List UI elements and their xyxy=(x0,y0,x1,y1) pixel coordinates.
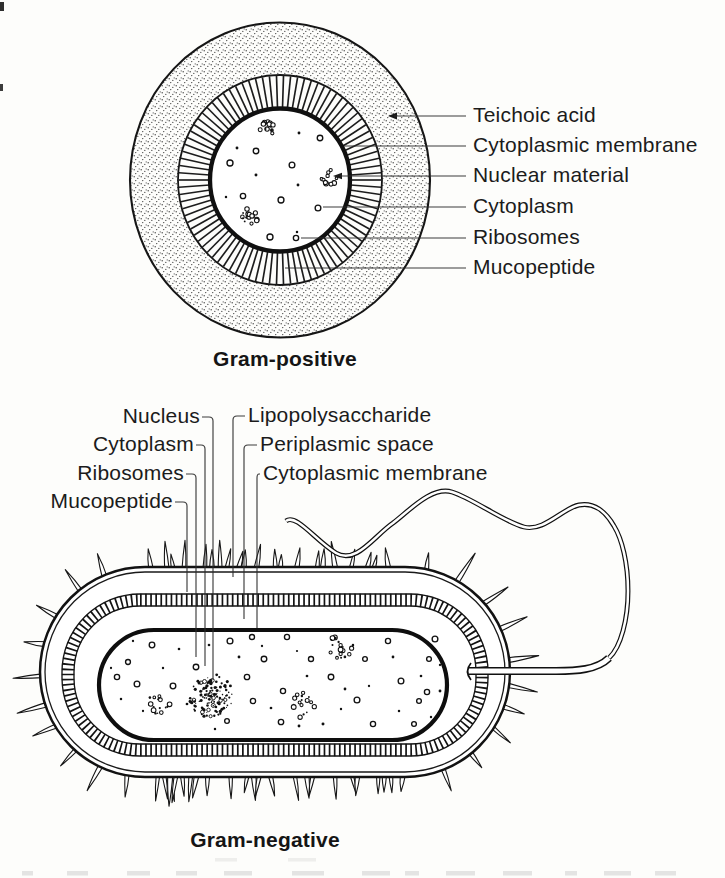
nuclear-granule xyxy=(159,711,163,715)
ribosome-dot xyxy=(392,656,395,659)
ribosome xyxy=(424,689,429,694)
fimbria xyxy=(164,541,169,569)
nucleoid-speck xyxy=(228,692,230,694)
nucleoid-speck xyxy=(210,687,212,689)
nucleoid-speck xyxy=(217,713,219,715)
ribosome-dot xyxy=(178,648,181,651)
ribosome-dot xyxy=(398,710,401,713)
nucleoid-speck xyxy=(212,696,216,700)
scan-edge-mark xyxy=(0,84,3,91)
hatch-spoke xyxy=(342,214,369,229)
ribosome xyxy=(126,660,131,665)
gram-negative-caption: Gram-negative xyxy=(190,828,340,851)
nucleoid-speck xyxy=(195,703,196,704)
fimbria xyxy=(454,553,475,584)
nuclear-granule xyxy=(301,699,303,701)
ribosome-dot xyxy=(120,698,122,700)
nuclear-granule xyxy=(149,696,152,699)
gram-positive-caption: Gram-positive xyxy=(213,347,357,370)
ribosome-dot xyxy=(238,656,241,659)
nucleoid-speck xyxy=(200,699,203,702)
nuclear-granule xyxy=(245,207,249,211)
ribosome xyxy=(412,722,417,727)
nucleoid-speck xyxy=(219,699,222,702)
gn-label-lipopolysaccharide: Lipopolysaccharide xyxy=(248,403,431,426)
nuclear-granule xyxy=(261,122,265,126)
ribosome xyxy=(427,657,432,662)
nucleoid-speck xyxy=(216,693,217,694)
nucleoid-speck xyxy=(206,715,208,717)
ribosome-dot xyxy=(214,728,216,730)
nucleoid-speck xyxy=(201,707,203,709)
nucleoid-speck xyxy=(202,696,204,698)
ribosome xyxy=(227,160,233,166)
nuclear-granule xyxy=(159,698,163,702)
nuclear-granule xyxy=(308,696,310,698)
nucleoid-speck xyxy=(230,703,231,704)
gn-label-ribosomes: Ribosomes xyxy=(77,461,184,484)
nuclear-granule xyxy=(326,174,329,177)
fimbria xyxy=(17,702,48,713)
nuclear-granule xyxy=(271,123,275,127)
cropped-caption-fragment xyxy=(292,871,324,876)
ribosome-dot xyxy=(225,196,227,198)
ribosome xyxy=(149,642,155,648)
cropped-caption-fragment xyxy=(288,858,316,862)
fimbria xyxy=(293,775,299,800)
nucleoid-speck xyxy=(208,698,211,701)
hatch-spoke xyxy=(262,77,267,109)
nucleoid-speck xyxy=(209,715,212,718)
hatch-spoke xyxy=(242,247,254,277)
hatch-spoke xyxy=(292,77,297,109)
ribosome xyxy=(170,683,176,689)
fimbria xyxy=(333,775,337,799)
nucleoid-speck xyxy=(223,702,225,704)
ribosome-dot xyxy=(270,707,273,710)
nuclear-granule xyxy=(242,217,244,219)
ribosome-dot xyxy=(110,667,112,669)
nucleoid-speck xyxy=(206,704,209,707)
nuclear-granule xyxy=(305,699,309,703)
nucleoid-speck xyxy=(194,710,196,712)
nuclear-granule xyxy=(165,707,167,709)
gp-cytoplasmic-membrane xyxy=(210,109,350,252)
nuclear-granule xyxy=(342,646,344,648)
nuclear-granule xyxy=(301,695,303,697)
bacteria-cell-wall-diagram: Teichoic acid Cytoplasmic membrane Nucle… xyxy=(0,0,725,878)
textbook-figure-bacterial-cell-walls: Teichoic acid Cytoplasmic membrane Nucle… xyxy=(0,0,725,878)
nucleoid-speck xyxy=(231,694,232,695)
nucleoid-speck xyxy=(209,679,212,682)
nucleoid-speck xyxy=(221,682,223,684)
nuclear-granule xyxy=(334,637,337,640)
nucleoid-speck xyxy=(209,695,212,698)
hatch-spoke xyxy=(180,190,211,195)
nucleoid-speck xyxy=(209,690,211,692)
nuclear-granule xyxy=(323,180,327,184)
nucleoid-speck xyxy=(207,702,208,703)
fimbria xyxy=(155,775,159,801)
ribosome-dot xyxy=(420,675,423,678)
cropped-caption-fragment xyxy=(22,871,33,876)
nuclear-granule xyxy=(331,639,333,641)
hatch-spoke xyxy=(236,245,250,274)
nuclear-granule xyxy=(258,128,262,132)
nuclear-granule xyxy=(327,171,330,174)
nucleoid-speck xyxy=(193,686,195,688)
gn-label-cytoplasmic-membrane: Cytoplasmic membrane xyxy=(263,461,488,484)
nucleoid-speck xyxy=(226,680,229,683)
hatch-spoke xyxy=(311,245,325,274)
nucleoid-speck xyxy=(222,694,224,696)
hatch-spoke xyxy=(350,173,381,175)
hatch-spoke xyxy=(342,131,369,146)
nucleoid-speck xyxy=(192,700,193,701)
nuclear-granule xyxy=(167,702,172,707)
cropped-caption-fragment xyxy=(176,871,197,876)
gn-label-periplasmic-space: Periplasmic space xyxy=(260,432,434,455)
nucleoid-speck xyxy=(216,686,218,688)
nucleoid-speck xyxy=(216,696,218,698)
ribosome-dot xyxy=(132,640,134,642)
gp-label-teichoic-acid: Teichoic acid xyxy=(473,103,596,126)
nucleoid-speck xyxy=(219,697,222,700)
nuclear-granule xyxy=(271,132,274,135)
ribosome-dot xyxy=(352,644,354,646)
